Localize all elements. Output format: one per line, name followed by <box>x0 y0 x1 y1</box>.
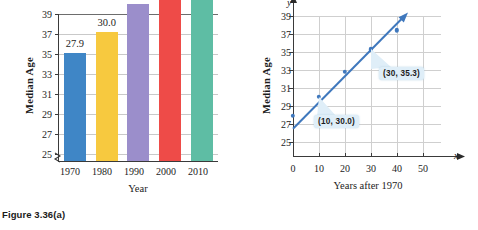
figure-a-x-axis-title: Year <box>98 183 178 194</box>
figure-b-xtickmark-40 <box>397 153 398 157</box>
figure-a-ytick-29: 29 <box>24 109 52 120</box>
figure-b-xtick-50: 50 <box>403 163 443 174</box>
figure-b-xtickmark-50 <box>423 153 424 157</box>
figure-b-tickmark-31 <box>289 88 293 89</box>
figure-b-ytick-35: 35 <box>269 47 291 58</box>
figure-b-xtickmark-20 <box>345 153 346 157</box>
figure-a-bar-slot-2000: 35.3 <box>154 14 186 161</box>
figure-pair: Median Age 39 37 35 33 31 29 27 25 <box>0 0 478 230</box>
figure-b-x-axis-letter: x <box>454 150 458 161</box>
figure-b-gridline-31 <box>293 88 441 89</box>
figure-a-xtick-2010: 2010 <box>178 166 218 177</box>
figure-a-panel: Median Age 39 37 35 33 31 29 27 25 <box>0 0 239 230</box>
figure-b-vgridline-30 <box>371 16 372 157</box>
figure-b-gridline-39 <box>293 16 441 17</box>
figure-a-ytick-31: 31 <box>24 89 52 100</box>
figure-b-datapoint-0-27.9 <box>291 114 295 118</box>
figure-b-y-axis-line <box>293 1 294 157</box>
figure-b-tickmark-37 <box>289 34 293 35</box>
figure-b-tickmark-35 <box>289 52 293 53</box>
figure-b-datapoint-20-32.8 <box>343 70 347 74</box>
figure-b-ytick-25: 25 <box>269 137 291 148</box>
figure-a-bars: 27.9 30.0 32.8 35.3 <box>59 14 218 161</box>
figure-b-tickmark-27 <box>289 124 293 125</box>
figure-a-bar-2000: 35.3 <box>159 0 181 161</box>
figure-b-gridline-35 <box>293 52 441 53</box>
figure-a-plot-area: 27.9 30.0 32.8 35.3 <box>58 14 218 162</box>
figure-a-bar-slot-2010: 37.4 <box>186 14 218 161</box>
figure-b-trendline <box>293 11 441 157</box>
figure-b-xtickmark-10 <box>319 153 320 157</box>
figure-b-callout-10-30: (10, 30.0) <box>314 115 359 128</box>
figure-b-datapoint-10-30.0 <box>317 95 321 99</box>
figure-a-axis-break-icon <box>54 152 63 163</box>
figure-a-bar-slot-1970: 27.9 <box>59 14 91 161</box>
figure-b-gridline-29 <box>293 106 441 107</box>
figure-a-bar-value-1980: 30.0 <box>98 17 116 28</box>
figure-b-gridline-25 <box>293 142 441 143</box>
figure-a-ytick-35: 35 <box>24 49 52 60</box>
figure-b-callout-30-35: (30, 35.3) <box>379 67 424 80</box>
figure-a-bar-value-1970: 27.9 <box>66 38 84 49</box>
figure-a-bar-1980: 30.0 <box>96 32 118 161</box>
figure-b-y-axis-letter: y <box>287 0 291 8</box>
figure-b-datapoint-30-35.3 <box>369 47 373 51</box>
figure-b-vgridline-20 <box>345 16 346 157</box>
figure-b-tickmark-29 <box>289 106 293 107</box>
figure-b-gridline-37 <box>293 34 441 35</box>
figure-a-ytick-37: 37 <box>24 29 52 40</box>
figure-a-ytick-25: 25 <box>24 149 52 160</box>
figure-b-plot-area: (10, 30.0) (30, 35.3) <box>293 11 441 157</box>
figure-a-bar-1970: 27.9 <box>64 53 86 161</box>
figure-b-xtickmark-30 <box>371 153 372 157</box>
figure-b-tickmark-33 <box>289 70 293 71</box>
figure-a-bar-slot-1980: 30.0 <box>91 14 123 161</box>
figure-a-bar-slot-1990: 32.8 <box>123 14 155 161</box>
figure-b-datapoint-40-37.4 <box>395 28 399 32</box>
figure-a-ytick-27: 27 <box>24 129 52 140</box>
figure-b-x-axis-line <box>293 156 459 157</box>
figure-b-ytick-37: 37 <box>269 29 291 40</box>
figure-b-ytick-39: 39 <box>269 11 291 22</box>
figure-b-vgridline-50 <box>423 16 424 157</box>
figure-b-panel: Median Age 39 37 35 33 31 29 27 25 <box>239 0 478 230</box>
figure-b-x-axis-title: Years after 1970 <box>298 180 438 191</box>
figure-a-bar-2010: 37.4 <box>191 0 213 161</box>
figure-b-ytick-27: 27 <box>269 119 291 130</box>
figure-a-caption: Figure 3.36(a) <box>2 209 65 220</box>
figure-b-vgridline-10 <box>319 16 320 157</box>
figure-b-tickmark-25 <box>289 142 293 143</box>
figure-b-ytick-31: 31 <box>269 83 291 94</box>
figure-b-vgridline-40 <box>397 16 398 157</box>
figure-b-ytick-29: 29 <box>269 101 291 112</box>
figure-a-ytick-33: 33 <box>24 69 52 80</box>
figure-b-tickmark-39 <box>289 16 293 17</box>
figure-b-ytick-33: 33 <box>269 65 291 76</box>
figure-a-bar-1990: 32.8 <box>127 4 149 161</box>
figure-a-ytick-39: 39 <box>24 9 52 20</box>
